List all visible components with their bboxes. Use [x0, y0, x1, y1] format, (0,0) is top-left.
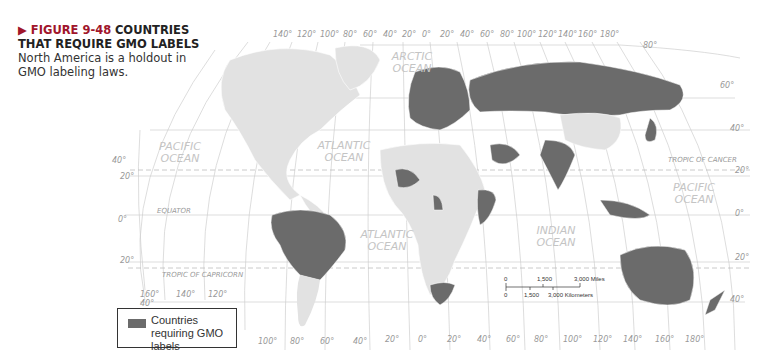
left-latitude-labels: 40° 20° 0° 20° 40°: [112, 156, 154, 308]
legend-label: Countries requiring GMO labels: [151, 314, 236, 353]
svg-text:180°: 180°: [600, 30, 619, 39]
svg-text:40°: 40°: [353, 337, 367, 346]
svg-text:OCEAN: OCEAN: [674, 193, 713, 206]
svg-text:20°: 20°: [735, 253, 749, 262]
svg-text:160°: 160°: [655, 335, 674, 344]
world-map: 140° 120° 100° 80° 60° 40° 20° 0° 20° 40…: [0, 0, 763, 364]
svg-text:80°: 80°: [500, 30, 514, 39]
svg-text:100°: 100°: [320, 30, 339, 39]
svg-text:OCEAN: OCEAN: [160, 152, 199, 165]
svg-text:3,000 Kilometers: 3,000 Kilometers: [548, 292, 593, 298]
svg-text:140°: 140°: [273, 30, 292, 39]
svg-text:20°: 20°: [120, 172, 134, 181]
svg-text:140°: 140°: [176, 290, 195, 299]
svg-text:20°: 20°: [402, 30, 416, 39]
equator-label: EQUATOR: [157, 207, 191, 215]
svg-text:120°: 120°: [297, 30, 316, 39]
svg-text:40°: 40°: [477, 335, 491, 344]
svg-text:60°: 60°: [363, 30, 377, 39]
svg-text:0°: 0°: [422, 30, 431, 39]
svg-text:140°: 140°: [623, 335, 642, 344]
svg-text:40°: 40°: [383, 30, 397, 39]
svg-text:OCEAN: OCEAN: [324, 151, 363, 164]
svg-text:100°: 100°: [563, 335, 582, 344]
svg-text:60°: 60°: [320, 337, 334, 346]
svg-text:OCEAN: OCEAN: [392, 62, 431, 75]
tropic-of-capricorn-label: TROPIC OF CAPRICORN: [162, 271, 244, 279]
svg-text:0°: 0°: [735, 209, 744, 218]
svg-text:OCEAN: OCEAN: [536, 236, 575, 249]
svg-text:40°: 40°: [730, 124, 744, 133]
tropic-of-cancer-label: TROPIC OF CANCER: [668, 156, 737, 164]
svg-text:20°: 20°: [735, 166, 749, 175]
svg-text:0°: 0°: [418, 335, 427, 344]
svg-text:20°: 20°: [447, 335, 461, 344]
svg-text:160°: 160°: [578, 30, 597, 39]
svg-text:40°: 40°: [140, 299, 154, 308]
top-longitude-labels: 140° 120° 100° 80° 60° 40° 20° 0° 20° 40…: [273, 30, 619, 39]
svg-text:80°: 80°: [343, 30, 357, 39]
scale-bar: 0 1,500 3,000 Miles 0 1,500 3,000 Kilome…: [504, 276, 605, 298]
svg-text:60°: 60°: [720, 81, 734, 90]
svg-text:1,500: 1,500: [524, 292, 540, 298]
svg-text:80°: 80°: [290, 337, 304, 346]
svg-text:120°: 120°: [208, 290, 227, 299]
svg-text:40°: 40°: [460, 30, 474, 39]
svg-text:100°: 100°: [517, 30, 536, 39]
svg-text:20°: 20°: [440, 30, 454, 39]
svg-text:20°: 20°: [385, 335, 399, 344]
svg-text:20°: 20°: [120, 256, 134, 265]
svg-text:100°: 100°: [258, 337, 277, 346]
svg-text:0°: 0°: [118, 215, 127, 224]
svg-text:60°: 60°: [480, 30, 494, 39]
svg-text:80°: 80°: [534, 335, 548, 344]
svg-text:120°: 120°: [593, 335, 612, 344]
map-legend: Countries requiring GMO labels: [117, 308, 237, 348]
svg-text:80°: 80°: [643, 41, 657, 50]
svg-text:180°: 180°: [685, 335, 704, 344]
svg-text:1,500: 1,500: [537, 276, 553, 282]
svg-text:140°: 140°: [558, 30, 577, 39]
svg-text:0: 0: [504, 292, 508, 298]
gmo-swatch: [128, 319, 146, 328]
argentina: [297, 275, 320, 326]
svg-text:40°: 40°: [112, 156, 126, 165]
svg-text:160°: 160°: [140, 290, 159, 299]
svg-text:60°: 60°: [506, 335, 520, 344]
svg-text:120°: 120°: [538, 30, 557, 39]
svg-text:3,000 Miles: 3,000 Miles: [574, 276, 605, 282]
svg-text:40°: 40°: [730, 295, 744, 304]
svg-text:0: 0: [504, 276, 508, 282]
svg-text:OCEAN: OCEAN: [367, 240, 406, 253]
